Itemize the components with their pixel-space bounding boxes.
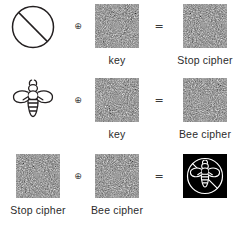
equals-operator-symbol: =	[148, 21, 170, 32]
row-1-operand-a	[8, 4, 68, 50]
row-1-result-label: Stop cipher	[166, 54, 244, 66]
row-2-result: Bee cipher	[170, 78, 240, 122]
prohibition-sign-icon	[8, 4, 58, 50]
xor-operator-symbol: ⊕	[68, 22, 88, 31]
diagram-row-1: ⊕	[0, 4, 245, 76]
row-2-operand-b-label: key	[86, 128, 148, 140]
noise-square-stop-cipher	[183, 4, 227, 48]
row-1-result: Stop cipher	[170, 4, 240, 48]
noise-square-stop-cipher	[16, 154, 60, 198]
xor-operator-symbol: ⊕	[68, 172, 88, 181]
row-3-operand-a: Stop cipher	[8, 154, 68, 198]
diagram-row-2: ⊕	[0, 78, 245, 152]
row-3-operand-a-label: Stop cipher	[4, 204, 72, 216]
equals-operator-symbol: =	[148, 95, 170, 106]
row-3-operand-b: Bee cipher	[86, 154, 148, 198]
noise-square-key	[95, 78, 139, 122]
row-1-operand-b-label: key	[86, 54, 148, 66]
bee-icon	[8, 78, 58, 124]
noise-square-bee-cipher	[183, 78, 227, 122]
noise-square-key	[95, 4, 139, 48]
xor-cipher-diagram: ⊕	[0, 0, 245, 233]
row-3-result	[170, 154, 240, 198]
row-2-operand-b: key	[86, 78, 148, 122]
row-3-operand-b-label: Bee cipher	[82, 204, 152, 216]
equals-operator-symbol: =	[148, 171, 170, 182]
bee-in-prohibition-sign-icon	[183, 154, 227, 198]
row-2-result-label: Bee cipher	[166, 128, 244, 140]
row-2-operand-a	[8, 78, 68, 124]
xor-operator-symbol: ⊕	[68, 96, 88, 105]
diagram-row-3: Stop cipher ⊕	[0, 154, 245, 233]
noise-square-bee-cipher	[95, 154, 139, 198]
row-1-operand-b: key	[86, 4, 148, 48]
